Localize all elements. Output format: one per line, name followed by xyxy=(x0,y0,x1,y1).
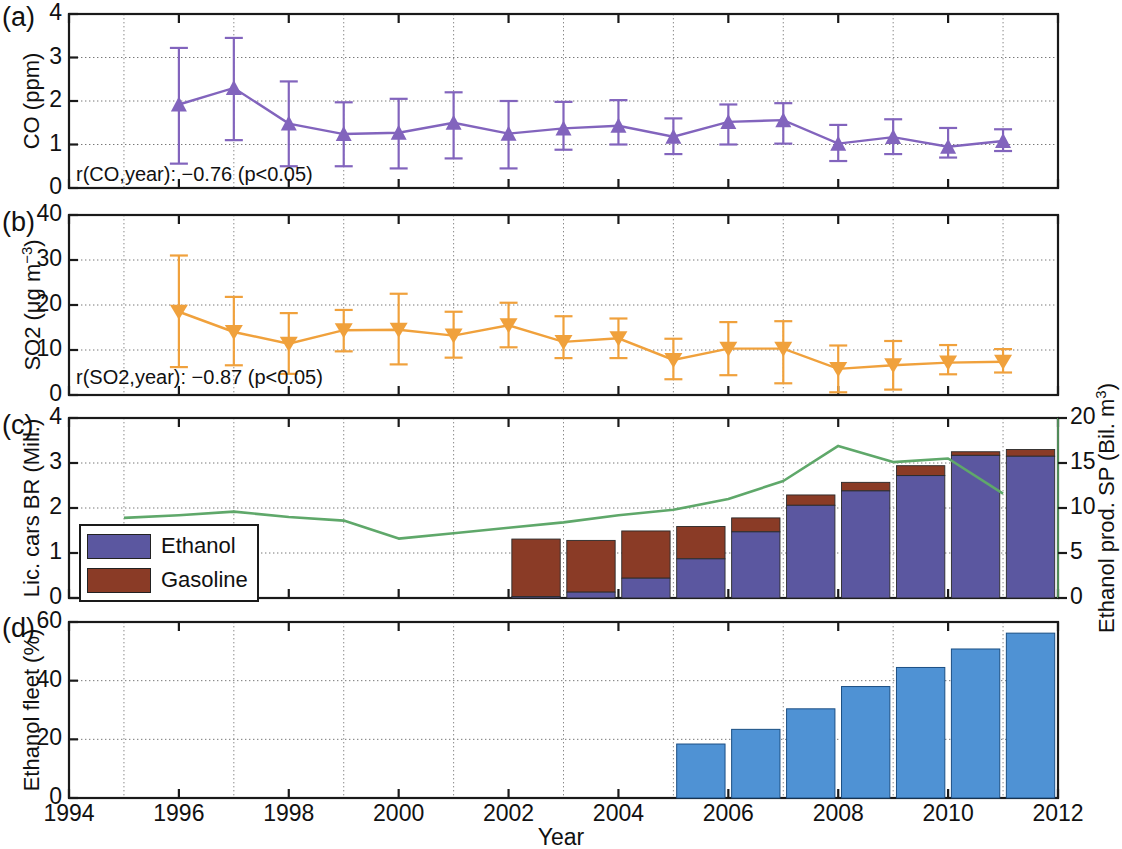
y-axis-title-ethanol-prod: Ethanol prod. SP (Bil. m3) xyxy=(1092,383,1120,633)
xtick-label: 2006 xyxy=(688,800,768,827)
xtick-label: 2000 xyxy=(359,800,439,827)
xtick-label: 2002 xyxy=(469,800,549,827)
bar-ethanol xyxy=(622,578,670,598)
legend-swatch-ethanol xyxy=(87,534,151,559)
xtick-label: 2012 xyxy=(1018,800,1098,827)
bar-gasoline xyxy=(567,540,615,592)
bar-ethanol-fleet xyxy=(677,744,725,798)
bar-ethanol-fleet xyxy=(842,687,890,798)
y-axis-title-so2: SO2 (μg m−3) xyxy=(18,239,46,370)
panel-c-series xyxy=(124,446,1055,598)
y-axis-title-ethanol-prod-exponent: 3 xyxy=(1092,390,1109,398)
marker-triangle-up xyxy=(446,115,462,130)
y-axis-title-so2-exponent: −3 xyxy=(18,247,35,264)
xtick-label: 2008 xyxy=(798,800,878,827)
annotation-so2-correlation: r(SO2,year): −0.87 (p<0.05) xyxy=(76,366,323,389)
bar-ethanol-fleet xyxy=(1006,633,1054,798)
bar-gasoline xyxy=(896,466,944,476)
y-axis-title-cars: Lic. cars BR (Mill.) xyxy=(19,419,45,597)
xtick-label: 1996 xyxy=(139,800,219,827)
legend: EthanolGasoline xyxy=(79,524,259,602)
bar-ethanol xyxy=(842,491,890,598)
y-axis-title-ethanol-prod-tail: ) xyxy=(1094,383,1119,390)
legend-label-gasoline: Gasoline xyxy=(161,567,248,593)
xtick-label: 2010 xyxy=(908,800,988,827)
bar-ethanol xyxy=(896,476,944,598)
legend-item-gasoline: Gasoline xyxy=(87,563,251,597)
y-axis-title-fleet: Ethanol fleet (%) xyxy=(19,629,45,792)
bar-ethanol-fleet xyxy=(951,649,999,798)
bar-ethanol-fleet xyxy=(896,667,944,798)
so2-line xyxy=(179,312,1003,369)
panel_c-right-axis xyxy=(1058,418,1067,598)
y-axis-title-so2-main: SO2 (μg m xyxy=(20,264,45,371)
marker-triangle-up xyxy=(226,80,242,95)
marker-triangle-down xyxy=(280,337,298,352)
bar-ethanol xyxy=(512,597,560,598)
ytick-label: 4 xyxy=(10,0,62,26)
bar-ethanol xyxy=(1006,456,1054,598)
marker-triangle-up xyxy=(281,116,297,131)
y-axis-title-ethanol-prod-main: Ethanol prod. SP (Bil. m xyxy=(1094,399,1119,633)
bar-gasoline xyxy=(622,531,670,578)
bar-ethanol-fleet xyxy=(787,709,835,798)
y-axis-title-co: CO (ppm) xyxy=(19,53,45,150)
marker-triangle-down xyxy=(170,305,188,320)
bar-ethanol xyxy=(677,559,725,598)
bar-gasoline xyxy=(732,518,780,532)
panel-d-series xyxy=(677,633,1055,798)
legend-label-ethanol: Ethanol xyxy=(161,533,236,559)
bar-gasoline xyxy=(787,495,835,505)
bar-ethanol xyxy=(787,505,835,598)
bar-ethanol xyxy=(732,532,780,598)
legend-item-ethanol: Ethanol xyxy=(87,529,251,563)
legend-swatch-gasoline xyxy=(87,568,151,593)
xtick-label: 1998 xyxy=(249,800,329,827)
co-line xyxy=(179,88,1003,147)
bar-gasoline xyxy=(842,482,890,491)
bar-gasoline xyxy=(1006,450,1054,457)
xtick-label: 1994 xyxy=(29,800,109,827)
ytick-label: 0 xyxy=(10,173,62,200)
bar-ethanol-fleet xyxy=(732,729,780,798)
y-axis-title-so2-tail: ) xyxy=(20,239,45,246)
ytick-label: 40 xyxy=(10,200,62,227)
annotation-co-correlation: r(CO,year): −0.76 (p<0.05) xyxy=(76,163,313,186)
bar-gasoline xyxy=(512,539,560,597)
marker-triangle-down xyxy=(664,353,682,368)
bar-ethanol xyxy=(567,592,615,598)
xtick-label: 2004 xyxy=(578,800,658,827)
x-axis-title: Year xyxy=(0,824,1122,849)
bar-gasoline xyxy=(951,452,999,456)
bar-gasoline xyxy=(677,526,725,558)
